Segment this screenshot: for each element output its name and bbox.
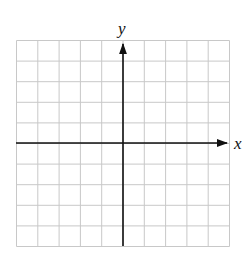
coordinate-plane: x y [0, 0, 248, 257]
x-axis-label: x [233, 134, 242, 153]
y-axis-label: y [116, 19, 126, 38]
